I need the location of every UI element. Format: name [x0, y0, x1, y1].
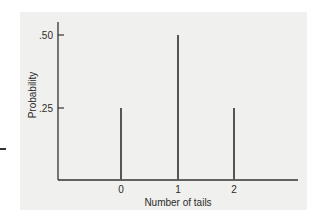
x-tick-label-1: 1	[175, 184, 181, 195]
x-tick-label-2: 2	[231, 184, 237, 195]
y-axis-title: Probability	[27, 72, 38, 119]
y-tick-label-050: .50	[39, 30, 53, 41]
x-tick-label-0: 0	[118, 184, 124, 195]
y-tick-label-025: .25	[39, 103, 53, 114]
x-axis-title: Number of tails	[144, 197, 211, 208]
probability-chart: .50 .25 0 1 2 Number of tails Probabilit…	[0, 0, 323, 221]
